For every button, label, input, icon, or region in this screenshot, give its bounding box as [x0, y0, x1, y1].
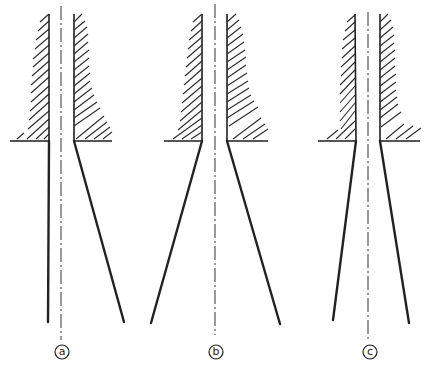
jet-right-c [380, 141, 409, 323]
nozzle-diagram: a [0, 0, 433, 380]
panel-label-b: b [209, 345, 223, 360]
panel-c: c [318, 12, 421, 359]
jet-right-b [227, 141, 280, 324]
hatching-right-b [227, 14, 268, 139]
jet-right-a [74, 141, 124, 322]
hatching-left-c [327, 15, 355, 139]
left-wall-c [355, 14, 356, 141]
panel-label-c: c [363, 345, 377, 360]
hatching-left-b [173, 14, 202, 139]
hatching-right-c [380, 14, 421, 139]
label-text-a: a [59, 345, 66, 358]
label-text-b: b [213, 345, 220, 358]
jet-left-a [48, 141, 49, 322]
panel-a: a [10, 6, 124, 359]
label-text-c: c [367, 345, 373, 358]
panel-b: b [151, 4, 280, 359]
panel-label-a: a [55, 345, 69, 360]
hatching-right-a [74, 14, 112, 139]
jet-left-b [151, 141, 202, 323]
jet-left-c [333, 141, 356, 320]
hatching-left-a [17, 14, 49, 139]
